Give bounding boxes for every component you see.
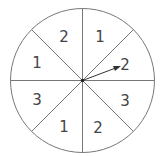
sector-label-top-left: 2 bbox=[59, 28, 69, 46]
sector-label-right-upper: 2 bbox=[120, 56, 130, 74]
spinner-diagram: 1 2 3 2 1 3 1 2 bbox=[0, 0, 161, 156]
sector-label-bottom-right: 2 bbox=[93, 119, 103, 137]
sector-label-right-lower: 3 bbox=[120, 92, 130, 110]
sector-label-left-lower: 3 bbox=[32, 91, 42, 109]
sector-label-bottom-left: 1 bbox=[59, 118, 69, 136]
sector-label-top-right: 1 bbox=[95, 28, 105, 46]
sector-label-left-upper: 1 bbox=[32, 54, 42, 72]
